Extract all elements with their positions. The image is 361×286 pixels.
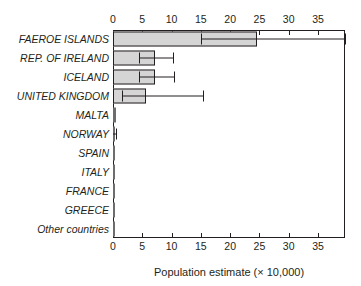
top-axis-tick-label: 15 bbox=[195, 13, 207, 25]
error-bar-cap-high bbox=[173, 53, 174, 64]
error-bar-cap-high bbox=[174, 72, 175, 83]
category-label: Other countries bbox=[37, 223, 109, 235]
category-label: MALTA bbox=[76, 109, 109, 121]
category-label: GREECE bbox=[65, 204, 109, 216]
bottom-axis-tick-label: 20 bbox=[224, 240, 236, 252]
error-bar-cap-high bbox=[203, 91, 204, 102]
category-label: ICELAND bbox=[63, 71, 109, 83]
bar bbox=[113, 164, 115, 179]
top-axis-tick-label: 5 bbox=[139, 13, 145, 25]
category-label: FAEROE ISLANDS bbox=[19, 33, 109, 45]
top-axis-tick-label: 20 bbox=[224, 13, 236, 25]
chart-row: REP. OF IRELAND bbox=[0, 49, 361, 68]
category-label: REP. OF IRELAND bbox=[20, 52, 109, 64]
error-bar bbox=[122, 96, 203, 97]
chart-row: ITALY bbox=[0, 162, 361, 181]
top-axis-tick-label: 30 bbox=[283, 13, 295, 25]
error-bar-cap-high bbox=[345, 34, 346, 45]
error-bar-cap-high bbox=[116, 128, 117, 139]
error-bar bbox=[139, 77, 174, 78]
chart-row: MALTA bbox=[0, 106, 361, 125]
chart-row: UNITED KINGDOM bbox=[0, 87, 361, 106]
chart-row: FAEROE ISLANDS bbox=[0, 30, 361, 49]
bottom-axis-tick-label: 15 bbox=[195, 240, 207, 252]
bottom-axis-tick-label: 30 bbox=[283, 240, 295, 252]
category-label: FRANCE bbox=[66, 185, 109, 197]
bar bbox=[113, 221, 115, 236]
category-label: SPAIN bbox=[78, 147, 109, 159]
bottom-axis-tick-label: 25 bbox=[254, 240, 266, 252]
chart-row: NORWAY bbox=[0, 125, 361, 144]
top-axis-tick-label: 10 bbox=[166, 13, 178, 25]
bar bbox=[113, 145, 115, 160]
top-axis-tick-label: 25 bbox=[254, 13, 266, 25]
error-bar-cap-low bbox=[139, 72, 140, 83]
bar bbox=[113, 183, 115, 198]
bottom-axis-tick-label: 10 bbox=[166, 240, 178, 252]
chart-row: Other countries bbox=[0, 219, 361, 238]
top-axis-tick-label: 35 bbox=[312, 13, 324, 25]
bottom-axis-tick-label: 0 bbox=[110, 240, 116, 252]
category-label: ITALY bbox=[82, 166, 109, 178]
bottom-axis-tick-label: 5 bbox=[139, 240, 145, 252]
bar bbox=[113, 108, 116, 123]
category-label: NORWAY bbox=[63, 128, 109, 140]
error-bar-cap-low bbox=[122, 91, 123, 102]
error-bar-cap-low bbox=[201, 34, 202, 45]
chart-row: GREECE bbox=[0, 200, 361, 219]
category-label: UNITED KINGDOM bbox=[17, 90, 109, 102]
chart-row: FRANCE bbox=[0, 181, 361, 200]
bottom-axis-tick-label: 35 bbox=[312, 240, 324, 252]
chart-row: ICELAND bbox=[0, 68, 361, 87]
bar bbox=[113, 202, 115, 217]
chart-row: SPAIN bbox=[0, 143, 361, 162]
error-bar-cap-low bbox=[139, 53, 140, 64]
error-bar bbox=[139, 58, 172, 59]
error-bar bbox=[201, 39, 345, 40]
bar-chart: 05101520253035 05101520253035 FAEROE ISL… bbox=[0, 0, 361, 286]
top-axis-tick-label: 0 bbox=[110, 13, 116, 25]
x-axis-title: Population estimate (× 10,000) bbox=[113, 266, 345, 278]
